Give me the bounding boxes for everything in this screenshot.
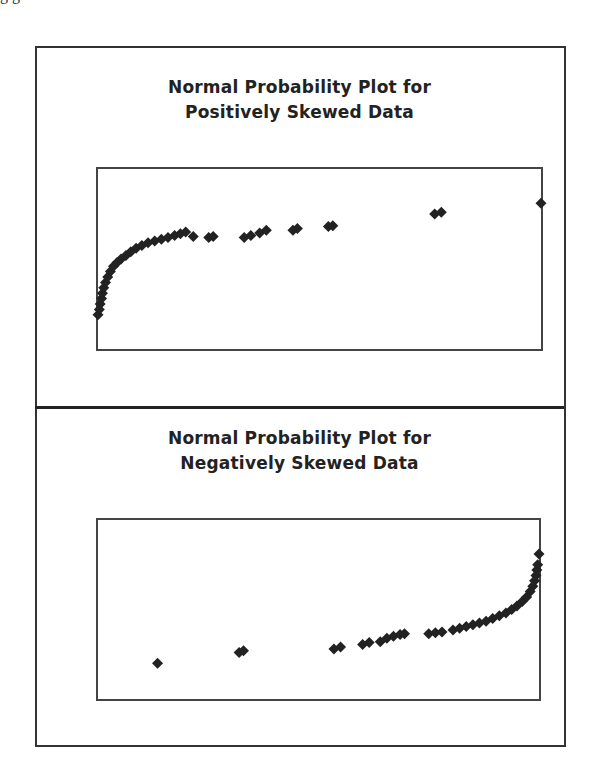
chart-title-line-1: Normal Probability Plot for xyxy=(35,75,564,100)
cut-off-text-line: g g xyxy=(0,0,602,4)
data-point-diamond xyxy=(436,626,447,637)
scatter-points-positive xyxy=(98,169,541,349)
chart-title-line-1: Normal Probability Plot for xyxy=(35,426,564,451)
chart-title-line-2: Positively Skewed Data xyxy=(35,100,564,125)
chart-title-line-2: Negatively Skewed Data xyxy=(35,451,564,476)
chart-title-negative: Normal Probability Plot for Negatively S… xyxy=(35,426,564,476)
plot-area-negative xyxy=(96,518,541,701)
plot-area-positive xyxy=(96,167,543,351)
scatter-points-negative xyxy=(98,520,539,699)
chart-title-positive: Normal Probability Plot for Positively S… xyxy=(35,75,564,125)
panel-divider xyxy=(35,406,564,409)
data-point-diamond xyxy=(152,658,163,669)
